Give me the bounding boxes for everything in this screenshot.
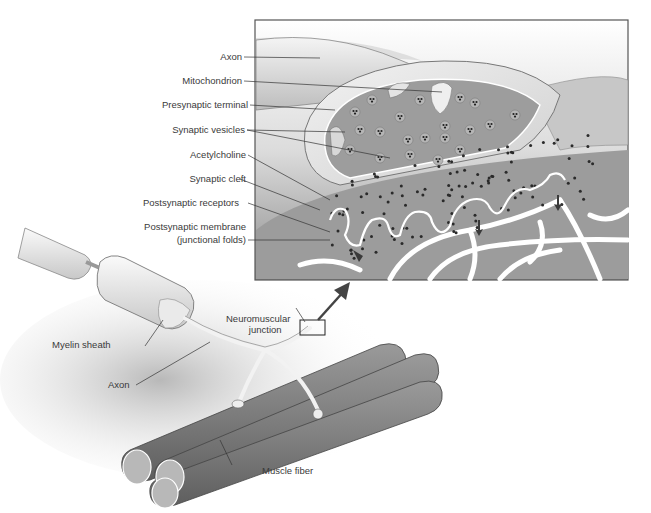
acetylcholine-molecule [450,160,453,163]
acetylcholine-molecule [447,184,450,187]
vesicle-ach-dot [408,138,410,140]
acetylcholine-molecule [400,185,403,188]
vesicle-ach-dot [355,110,357,112]
acetylcholine-molecule [571,144,574,147]
diagram-canvas: Axon Mitochondrion Presynaptic terminal … [0,0,651,513]
acetylcholine-molecule [553,142,556,145]
acetylcholine-molecule [511,151,514,154]
acetylcholine-molecule [474,220,477,223]
axon-terminal-bulb [232,400,244,408]
synaptic-vesicle [420,133,430,143]
vesicle-ach-dot [472,101,474,103]
vesicle-ach-dot [467,128,469,130]
acetylcholine-molecule [360,195,363,198]
acetylcholine-molecule [531,195,534,198]
axon-terminal-bulb [313,409,323,419]
vesicle-ach-dot [420,98,422,100]
myelin-segment-1 [18,228,91,279]
vesicle-ach-dot [444,127,446,129]
acetylcholine-molecule [463,206,466,209]
label-axon-overview: Axon [108,379,130,390]
vesicle-ach-dot [354,113,356,115]
vesicle-ach-dot [360,128,362,130]
fiber-end-1 [123,450,151,484]
fiber-end-3 [152,478,178,508]
synaptic-vesicle [470,98,480,108]
label-synaptic-cleft: Synaptic cleft [190,173,247,184]
acetylcholine-molecule [464,185,467,188]
acetylcholine-molecule [353,257,356,260]
acetylcholine-molecule [519,192,522,195]
synaptic-vesicle [375,153,385,163]
vesicle-ach-dot [515,113,517,115]
synaptic-vesicle [355,125,365,135]
acetylcholine-molecule [341,213,344,216]
vesicle-ach-dot [372,98,374,100]
acetylcholine-molecule [442,199,445,202]
vesicle-ach-dot [380,130,382,132]
vesicle-ach-dot [489,126,491,128]
acetylcholine-molecule [379,195,382,198]
acetylcholine-molecule [393,238,396,241]
vesicle-ach-dot [460,96,462,98]
acetylcholine-molecule [478,148,481,151]
synaptic-vesicle [405,150,415,160]
diagram-svg [0,0,651,513]
vesicle-ach-dot [417,98,419,100]
acetylcholine-molecule [420,235,423,238]
acetylcholine-molecule [456,171,459,174]
acetylcholine-molecule [447,160,450,163]
vesicle-ach-dot [407,141,409,143]
acetylcholine-molecule [579,190,582,193]
acetylcholine-molecule [529,144,532,147]
acetylcholine-molecule [455,231,458,234]
vesicle-ach-dot [379,133,381,135]
acetylcholine-molecule [530,184,533,187]
acetylcholine-molecule [462,154,465,157]
synaptic-vesicle [455,145,465,155]
acetylcholine-molecule [458,184,461,187]
acetylcholine-molecule [452,223,455,226]
synaptic-vesicle [485,120,495,130]
vesicle-ach-dot [409,156,411,158]
vesicle-ach-dot [445,124,447,126]
synaptic-vesicle [455,93,465,103]
acetylcholine-molecule [506,145,509,148]
acetylcholine-molecule [361,247,364,250]
acetylcholine-molecule [401,242,404,245]
vesicle-ach-dot [419,101,421,103]
vesicle-ach-dot [460,148,462,150]
acetylcholine-molecule [373,173,376,176]
acetylcholine-molecule [567,182,570,185]
acetylcholine-molecule [449,172,452,175]
acetylcholine-molecule [541,204,544,207]
acetylcholine-molecule [387,201,390,204]
acetylcholine-molecule [510,161,513,164]
acetylcholine-molecule [476,173,479,176]
acetylcholine-molecule [582,198,585,201]
acetylcholine-molecule [331,243,334,246]
acetylcholine-molecule [375,251,378,254]
vesicle-ach-dot [379,159,381,161]
acetylcholine-molecule [350,252,353,255]
vesicle-ach-dot [437,161,439,163]
acetylcholine-molecule [391,227,394,230]
vesicle-ach-dot [349,151,351,153]
acetylcholine-molecule [404,204,407,207]
acetylcholine-molecule [461,195,464,198]
acetylcholine-molecule [370,235,373,238]
vesicle-ach-dot [442,124,444,126]
synaptic-vesicle [350,107,360,117]
acetylcholine-molecule [374,175,377,178]
acetylcholine-molecule [591,162,594,165]
acetylcholine-molecule [497,148,500,151]
label-nmj-line2: junction [240,324,290,335]
acetylcholine-molecule [480,185,483,188]
vesicle-ach-dot [459,151,461,153]
acetylcholine-molecule [490,175,493,178]
vesicle-ach-dot [357,128,359,130]
acetylcholine-molecule [471,182,474,185]
synaptic-vesicle [440,121,450,131]
acetylcholine-molecule [542,141,545,144]
acetylcholine-molecule [488,177,491,180]
